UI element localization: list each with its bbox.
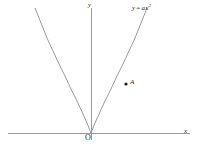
point-a-marker bbox=[124, 82, 127, 85]
figure-canvas bbox=[0, 0, 198, 148]
parabola-figure: y x O A y=ax2 bbox=[0, 0, 198, 148]
x-axis-label: x bbox=[184, 128, 187, 135]
y-axis-label: y bbox=[88, 2, 91, 9]
curve-equation-label: y=ax2 bbox=[132, 3, 151, 12]
origin-label: O bbox=[85, 134, 91, 142]
point-a-label: A bbox=[130, 79, 134, 86]
equation-exponent: 2 bbox=[148, 3, 151, 8]
